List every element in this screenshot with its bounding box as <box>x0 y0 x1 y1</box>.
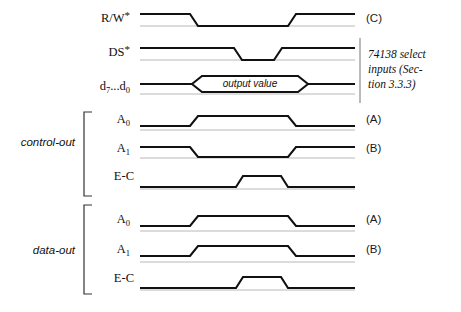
data-bus-value-label: output value <box>223 78 278 89</box>
signal-row-data-a1: A1 (B) <box>117 242 382 262</box>
signal-row-control-a0: A0 (A) <box>117 112 382 130</box>
signal-row-rw: R/W* (C) <box>101 9 382 26</box>
signal-label-data-bus: d7...d0 <box>100 79 130 95</box>
waveform-data-a0 <box>140 216 355 226</box>
waveform-control-a0 <box>140 116 355 126</box>
signal-row-ds: DS* <box>109 43 355 60</box>
group-bracket-control-out <box>84 112 92 196</box>
signal-label-rw: R/W* <box>101 9 130 25</box>
right-label-rw: (C) <box>366 12 382 24</box>
signal-label-data-a1: A1 <box>117 242 130 258</box>
signal-label-data-a0: A0 <box>117 212 130 228</box>
timing-diagram-figure: R/W* (C) DS* d7...d0 output value 74138 … <box>0 0 461 312</box>
signal-row-control-ec: E-C <box>114 169 355 189</box>
waveform-rw <box>140 14 355 26</box>
signal-label-control-a1: A1 <box>117 141 130 157</box>
signal-row-control-a1: A1 (B) <box>117 141 382 158</box>
signal-label-control-ec: E-C <box>114 169 134 183</box>
right-label-data-a0: (A) <box>366 213 382 225</box>
signal-label-control-a0: A0 <box>117 112 130 128</box>
waveform-data-a1 <box>140 246 355 256</box>
waveform-control-ec <box>140 176 355 187</box>
annotation-line-3: tion 3.3.3) <box>368 78 416 91</box>
annotation-line-1: 74138 select <box>368 48 427 60</box>
signal-row-data-bus: d7...d0 output value <box>100 76 355 95</box>
waveform-data-ec <box>140 277 355 288</box>
annotation-74138: 74138 select inputs (Sec- tion 3.3.3) <box>368 48 427 91</box>
signal-row-data-a0: A0 (A) <box>117 212 382 231</box>
group-label-data-out: data-out <box>33 244 76 256</box>
signal-row-data-ec: E-C <box>114 271 355 290</box>
signal-label-ds: DS* <box>109 43 130 59</box>
waveform-ds <box>140 48 355 60</box>
timing-diagram-canvas: R/W* (C) DS* d7...d0 output value 74138 … <box>0 0 461 312</box>
right-label-control-a0: (A) <box>366 113 382 125</box>
waveform-control-a1 <box>140 147 355 157</box>
annotation-line-2: inputs (Sec- <box>368 63 423 76</box>
group-bracket-data-out <box>84 205 92 294</box>
signal-label-data-ec: E-C <box>114 271 134 285</box>
right-label-control-a1: (B) <box>366 142 382 154</box>
right-label-data-a1: (B) <box>366 243 382 255</box>
group-label-control-out: control-out <box>21 136 76 148</box>
